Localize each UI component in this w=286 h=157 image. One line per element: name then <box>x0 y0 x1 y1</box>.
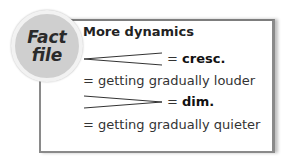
badge-line-1: Fact <box>27 28 66 46</box>
diminuendo-hairpin-icon <box>84 95 164 109</box>
fact-file-badge: Fact file <box>11 10 83 82</box>
dim-term: dim. <box>182 94 214 109</box>
dim-equals: = <box>167 94 178 109</box>
cresc-equals: = <box>167 51 178 66</box>
cresc-term: cresc. <box>182 51 225 66</box>
cresc-meaning: = getting gradually louder <box>83 73 255 88</box>
dim-meaning: = getting gradually quieter <box>83 117 260 132</box>
crescendo-hairpin-icon <box>84 52 164 66</box>
badge-line-2: file <box>32 46 63 64</box>
box-title: More dynamics <box>83 24 194 39</box>
